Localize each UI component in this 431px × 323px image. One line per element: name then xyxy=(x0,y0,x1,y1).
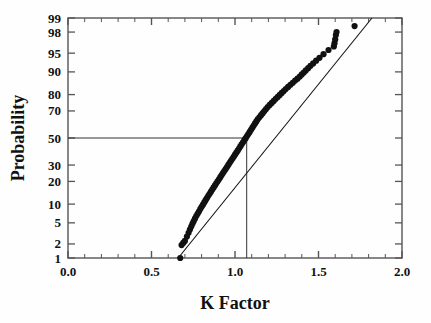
y-tick-label: 98 xyxy=(48,25,62,40)
y-tick-label: 5 xyxy=(55,215,62,230)
data-point xyxy=(351,23,357,29)
chart-canvas: 0.00.51.01.52.0 12510203050708090959899 … xyxy=(0,0,431,323)
y-tick-label: 70 xyxy=(48,103,61,118)
x-axis-title: K Factor xyxy=(200,293,269,313)
y-tick-label: 95 xyxy=(48,46,62,61)
y-tick-label: 2 xyxy=(55,236,62,251)
x-tick-label: 1.0 xyxy=(227,264,243,279)
probability-plot-figure: 0.00.51.01.52.0 12510203050708090959899 … xyxy=(0,0,431,323)
y-tick-label: 30 xyxy=(48,158,61,173)
data-point xyxy=(325,47,331,53)
y-tick-label: 1 xyxy=(55,251,62,266)
x-tick-label: 0.5 xyxy=(143,264,160,279)
data-point xyxy=(320,51,326,57)
y-axis-title: Probability xyxy=(8,95,28,182)
data-point xyxy=(177,255,183,261)
x-tick-label: 1.5 xyxy=(310,264,327,279)
y-tick-label: 80 xyxy=(48,87,61,102)
y-tick-label: 99 xyxy=(48,11,62,26)
y-tick-label: 10 xyxy=(48,197,61,212)
data-point xyxy=(333,29,339,35)
x-tick-label: 0.0 xyxy=(60,264,76,279)
y-tick-label: 50 xyxy=(48,131,61,146)
y-tick-label: 90 xyxy=(48,64,61,79)
x-tick-label: 2.0 xyxy=(394,264,410,279)
y-tick-label: 20 xyxy=(48,174,61,189)
